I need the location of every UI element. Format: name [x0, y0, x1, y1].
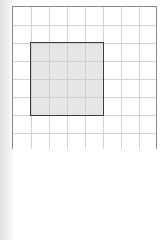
shaded-square	[30, 42, 104, 116]
grid-paper	[12, 6, 157, 149]
grid-line-horizontal	[13, 133, 156, 134]
grid-line-horizontal	[13, 25, 156, 26]
grid-line-vertical	[121, 7, 122, 149]
grid-line-vertical	[139, 7, 140, 149]
